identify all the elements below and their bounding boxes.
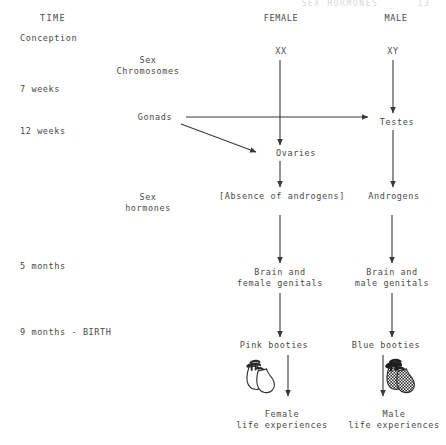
female-column-header: FEMALE [264,13,298,24]
stage-label-gonads: Gonads [138,112,172,123]
stage-label-sex-chromosomes-line2: Chromosomes [117,66,180,77]
timeline-item-5-months: 5 months [20,261,66,272]
arrow-gonads-to-ovaries [181,124,256,152]
female-node-life-line2: life experiences [236,420,327,431]
female-node-brain-line2: female genitals [237,278,323,289]
pink-booties-icon [240,357,284,403]
male-node-brain-line1: Brain and [366,267,417,278]
timeline-item-7-weeks: 7 weeks [20,84,60,95]
male-node-blue-booties: Blue booties [352,340,421,351]
female-node-pink-booties: Pink booties [240,340,309,351]
timeline-item-12-weeks: 12 weeks [20,126,66,137]
stage-label-sex-chromosomes-line1: Sex [139,55,156,66]
male-node-brain-line2: male genitals [355,278,429,289]
time-column-header: TIME [40,13,66,24]
female-node-xx: XX [275,46,286,57]
male-node-xy: XY [387,46,398,57]
timeline-item-conception: Conception [20,33,77,44]
male-column-header: MALE [385,13,408,24]
female-node-life-line1: Female [265,409,299,420]
timeline-item-9-months-birth: 9 months - BIRTH [20,327,111,338]
male-node-androgens: Androgens [368,191,419,202]
blue-booties-icon [380,357,424,403]
stage-label-sex-hormones-line1: Sex [139,192,156,203]
female-node-brain-line1: Brain and [254,267,305,278]
female-node-absence-of-androgens: [Absence of androgens] [219,191,345,202]
male-node-life-line2: life experiences [348,420,439,431]
stage-label-sex-hormones-line2: hormones [125,203,171,214]
male-node-testes: Testes [380,117,414,128]
male-node-life-line1: Male [383,409,406,420]
female-node-ovaries: Ovaries [276,148,316,159]
diagram-page: SEX HORMONES 13 [0,0,446,445]
